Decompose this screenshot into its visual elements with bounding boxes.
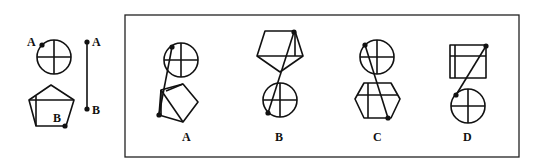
option-d-label: D <box>463 130 472 144</box>
option-a-segment <box>159 47 172 115</box>
reference-segment-ab <box>84 39 89 111</box>
option-b-label: B <box>275 130 283 144</box>
reference-point-b-label: B <box>53 111 61 125</box>
option-c-point-top <box>362 42 367 47</box>
option-b-segment <box>268 32 294 113</box>
option-a-point-top <box>169 44 174 49</box>
reference-point-a-label: A <box>27 35 36 49</box>
option-a-label: A <box>182 130 191 144</box>
option-d-point-bottom <box>453 92 458 97</box>
option-a[interactable]: A <box>156 43 198 144</box>
option-b-point-top <box>291 29 296 34</box>
reference-point-b <box>62 123 67 128</box>
option-b-pentagon <box>257 31 303 72</box>
option-a-pentagon <box>159 84 198 122</box>
option-c-point-bottom <box>385 115 390 120</box>
segment-b-label: B <box>92 103 100 117</box>
reference-point-a <box>39 42 44 47</box>
option-d[interactable]: D <box>450 43 489 144</box>
option-b-point-bottom <box>265 110 270 115</box>
option-d-rectangle-with-lines <box>450 45 486 78</box>
option-c[interactable]: C <box>355 40 400 144</box>
option-a-point-bottom <box>156 112 161 117</box>
puzzle-diagram: A B A B <box>0 0 540 162</box>
reference-figure: A B A B <box>27 35 101 129</box>
reference-pentagon <box>29 85 74 126</box>
option-c-label: C <box>373 130 382 144</box>
option-d-point-top <box>483 43 488 48</box>
option-c-hexagon <box>355 83 400 118</box>
segment-a-label: A <box>92 35 101 49</box>
option-b[interactable]: B <box>257 29 303 144</box>
option-d-segment <box>456 46 486 95</box>
